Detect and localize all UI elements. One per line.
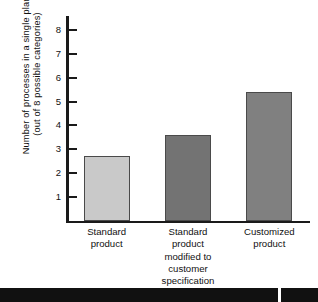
y-tick-2: 2	[66, 172, 77, 174]
y-axis-title: Number of processes in a single plant (o…	[14, 0, 50, 169]
plot-area: 12345678	[66, 16, 310, 223]
y-tick-label: 1	[56, 192, 61, 202]
y-tick-5: 5	[66, 101, 77, 103]
bar-3	[246, 92, 292, 220]
category-label-line: modified to	[147, 251, 228, 263]
y-axis-title-line-2: (out of 8 possible categories)	[32, 12, 43, 136]
y-tick-label: 2	[56, 168, 61, 178]
x-axis-spine	[66, 221, 310, 224]
y-tick-mark	[69, 77, 77, 79]
category-label-line: product	[66, 238, 147, 250]
y-tick-label: 6	[56, 73, 61, 83]
y-axis-title-line-1: Number of processes in a single plant	[21, 0, 32, 154]
y-tick-4: 4	[66, 124, 77, 126]
y-tick-mark	[69, 196, 77, 198]
page-bottom-band-notch	[278, 288, 281, 302]
y-tick-mark	[69, 53, 77, 55]
y-tick-3: 3	[66, 148, 77, 150]
y-tick-label: 4	[56, 121, 61, 131]
y-tick-mark	[69, 124, 77, 126]
category-label-line: product	[147, 238, 228, 250]
category-label-line: customer	[147, 263, 228, 275]
y-tick-7: 7	[66, 53, 77, 55]
category-label-line: product	[229, 238, 310, 250]
y-axis-spine	[66, 16, 69, 223]
y-tick-mark	[69, 29, 77, 31]
y-tick-label: 7	[56, 49, 61, 59]
bar-2	[165, 135, 211, 221]
category-label-line: Standard	[66, 226, 147, 238]
y-tick-mark	[69, 148, 77, 150]
y-tick-6: 6	[66, 77, 77, 79]
page-bottom-band	[0, 288, 318, 302]
y-tick-8: 8	[66, 29, 77, 31]
bar-1	[84, 156, 130, 220]
category-label-line: Standard	[147, 226, 228, 238]
category-label-line: specification	[147, 275, 228, 287]
category-label-1: Standardproduct	[66, 226, 147, 251]
category-label-line: Customized	[229, 226, 310, 238]
y-tick-label: 3	[56, 144, 61, 154]
y-tick-mark	[69, 101, 77, 103]
category-label-2: Standardproductmodified tocustomerspecif…	[147, 226, 228, 287]
y-tick-label: 5	[56, 97, 61, 107]
y-tick-1: 1	[66, 196, 77, 198]
category-label-3: Customizedproduct	[229, 226, 310, 251]
y-tick-mark	[69, 172, 77, 174]
y-tick-label: 8	[56, 26, 61, 36]
bar-chart-figure: Number of processes in a single plant (o…	[0, 0, 318, 302]
